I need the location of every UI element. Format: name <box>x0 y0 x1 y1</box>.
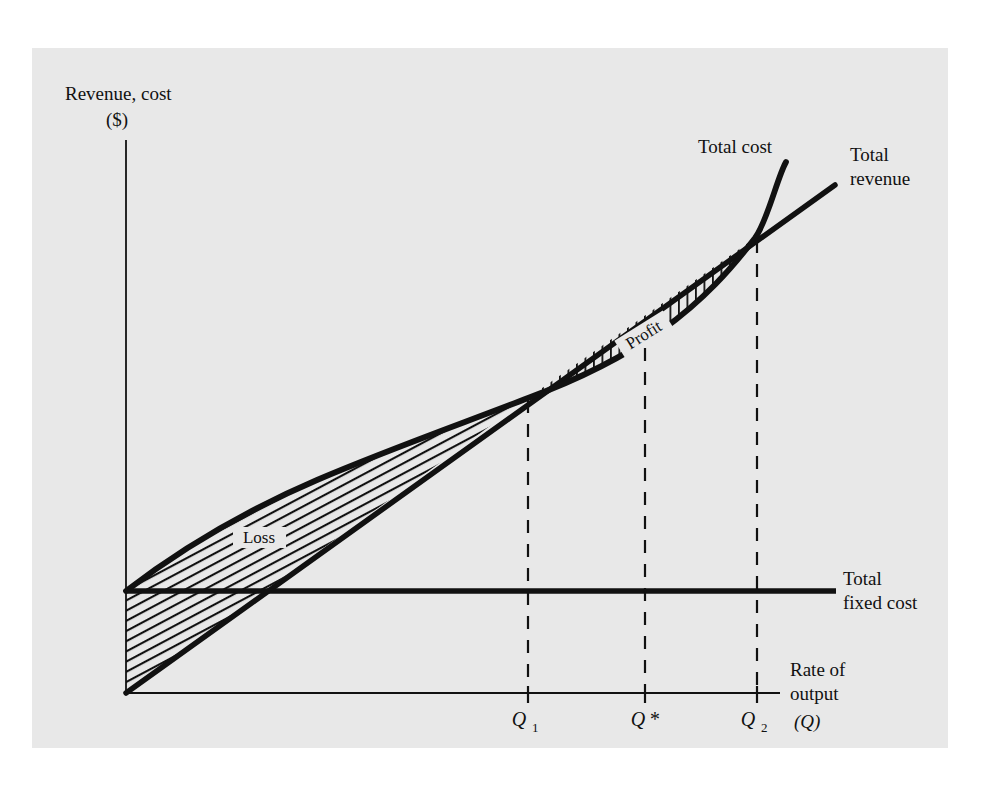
y-axis-title-line1: Revenue, cost <box>65 83 172 104</box>
x-axis-title: Rate of output (Q) <box>790 659 846 733</box>
total-cost-label-text: Total cost <box>698 136 773 157</box>
tick-label-qstar-star: * <box>649 708 659 730</box>
x-axis-title-line3: (Q) <box>794 711 820 733</box>
break-even-chart: Revenue, cost ($) Rate of output (Q) Q 1… <box>32 48 948 748</box>
x-axis-title-line2: output <box>790 683 839 704</box>
total-revenue-label-line1: Total <box>850 144 889 165</box>
total-cost-curve <box>126 162 786 591</box>
tick-label-qstar-base: Q <box>631 708 646 730</box>
total-revenue-label: Total revenue <box>850 144 910 189</box>
total-fixed-cost-label-line1: Total <box>843 568 882 589</box>
figure-root: Revenue, cost ($) Rate of output (Q) Q 1… <box>0 0 987 787</box>
loss-label: Loss <box>233 527 286 548</box>
tick-label-q2-base: Q <box>741 708 756 730</box>
total-revenue-line <box>126 185 835 693</box>
tick-label-q2-sub: 2 <box>761 720 768 735</box>
tick-label-q1: Q 1 <box>512 708 539 735</box>
total-revenue-label-line2: revenue <box>850 168 910 189</box>
tick-label-q2: Q 2 <box>741 708 768 735</box>
tick-label-qstar: Q * <box>631 708 659 730</box>
total-cost-label: Total cost <box>698 136 773 157</box>
tick-label-q1-sub: 1 <box>532 720 539 735</box>
total-fixed-cost-label: Total fixed cost <box>843 568 918 613</box>
tick-label-q1-base: Q <box>512 708 527 730</box>
y-axis-title-line2: ($) <box>106 109 128 131</box>
profit-region <box>528 238 755 398</box>
x-axis-title-line1: Rate of <box>790 659 846 680</box>
loss-label-text: Loss <box>243 528 275 547</box>
chart-panel: Revenue, cost ($) Rate of output (Q) Q 1… <box>32 48 948 748</box>
y-axis-title: Revenue, cost ($) <box>65 83 172 131</box>
total-fixed-cost-label-line2: fixed cost <box>843 592 918 613</box>
